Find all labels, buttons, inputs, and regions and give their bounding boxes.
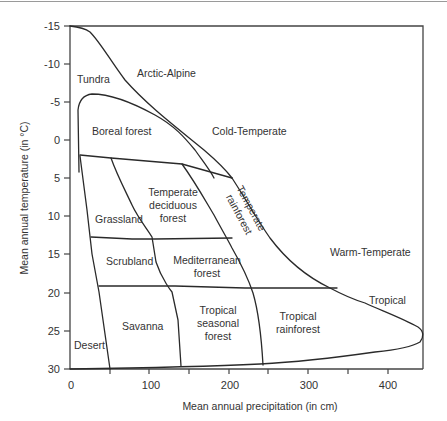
x-axis-ticks [110,369,388,374]
biome-label-boreal-forest: Boreal forest [92,125,152,137]
svg-text:Tropical: Tropical [200,304,237,316]
zone-label-tropical: Tropical [369,294,406,306]
svg-text:Mediterranean: Mediterranean [173,254,241,266]
y-tick-label: 15 [48,248,60,260]
x-axis-title: Mean annual precipitation (in cm) [182,400,337,412]
x-tick-label: 0 [68,379,74,391]
y-tick-label: 5 [54,172,60,184]
x-tick-label: 200 [221,379,239,391]
svg-text:seasonal: seasonal [197,317,239,329]
biome-label-savanna: Savanna [122,320,164,332]
grassland-scrubland-boundary [91,237,232,239]
y-tick-label: 25 [48,325,60,337]
biome-label-grassland: Grassland [95,213,143,225]
y-tick-label: 30 [48,363,60,375]
biome-label-mediterranean-forest: Mediterranean forest [173,254,241,279]
y-tick-label: 10 [48,210,60,222]
biome-label-temperate-deciduous-forest: Temperate deciduous forest [148,186,198,224]
y-axis-tick-labels: -15 -10 -5 0 5 10 15 20 25 30 [44,20,60,375]
x-axis-tick-labels: 0 100 200 300 400 [68,379,397,391]
x-tick-label: 100 [142,379,160,391]
zone-label-warm-temperate: Warm-Temperate [330,246,411,258]
svg-text:forest: forest [194,267,220,279]
y-tick-label: -10 [44,58,60,70]
x-tick-label: 300 [300,379,318,391]
y-tick-label: 20 [48,287,60,299]
svg-text:Tropical: Tropical [280,310,317,322]
scrubland-savanna-boundary [99,286,337,288]
y-tick-label: 0 [54,134,60,146]
biome-label-tundra: Tundra [77,73,110,85]
zone-label-cold-temperate: Cold-Temperate [212,125,287,137]
arctic-alpine-boundary [70,26,232,178]
svg-text:forest: forest [205,330,231,342]
zone-label-arctic-alpine: Arctic-Alpine [137,67,196,79]
svg-text:rainforest: rainforest [276,323,320,335]
boreal-temperate-boundary [80,155,232,178]
biome-label-desert: Desert [74,339,105,351]
biome-label-tropical-seasonal-forest: Tropical seasonal forest [197,304,239,342]
y-axis-ticks [64,26,70,369]
biome-diagram: -15 -10 -5 0 5 10 15 20 25 30 0 100 200 … [0,0,447,421]
biome-label-scrubland: Scrubland [106,255,153,267]
biome-label-tropical-rainforest: Tropical rainforest [276,310,320,335]
svg-text:forest: forest [160,212,186,224]
svg-text:Temperate: Temperate [148,186,198,198]
y-axis-title: Mean annual temperature (in °C) [18,121,30,274]
y-tick-label: -15 [44,20,60,32]
biome-label-temperate-rainforest: Temperate rainforest [224,183,269,236]
y-tick-label: -5 [50,96,60,108]
x-tick-label: 400 [379,379,397,391]
svg-text:deciduous: deciduous [149,199,197,211]
